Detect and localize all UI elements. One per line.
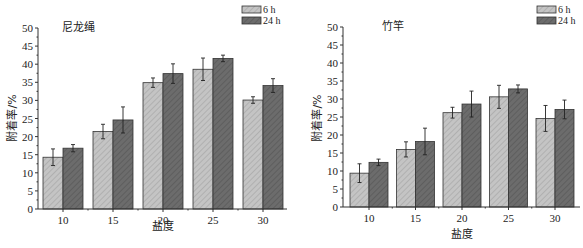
legend-swatch-6h xyxy=(537,6,556,13)
y-tick-label: 25 xyxy=(327,111,339,123)
y-tick-label: 35 xyxy=(327,75,339,87)
x-axis-title: 盐度 xyxy=(152,219,174,233)
y-tick-label: 50 xyxy=(327,21,339,33)
bar-6h-salinity-15 xyxy=(397,149,416,207)
x-tick-label: 30 xyxy=(550,212,562,224)
y-tick-label: 10 xyxy=(22,167,34,179)
bar-6h-salinity-20 xyxy=(143,83,163,209)
y-tick-label: 40 xyxy=(22,58,34,70)
y-tick-label: 45 xyxy=(327,39,339,51)
bar-24h-salinity-10 xyxy=(369,162,388,207)
x-tick-label: 10 xyxy=(364,212,376,224)
bar-24h-salinity-20 xyxy=(163,74,183,209)
x-tick-label: 15 xyxy=(410,212,422,224)
bars-layer xyxy=(350,89,574,207)
bar-6h-salinity-20 xyxy=(443,113,462,207)
legend: 6 h 24 h xyxy=(537,4,576,26)
x-tick-label: 25 xyxy=(208,214,220,226)
x-tick-label: 25 xyxy=(503,212,515,224)
bar-24h-salinity-20 xyxy=(462,104,481,207)
legend-swatch-6h xyxy=(242,6,261,13)
y-tick-label: 15 xyxy=(22,149,34,161)
x-tick-label: 30 xyxy=(258,214,270,226)
y-tick-label: 50 xyxy=(22,22,34,34)
figure: 05101520253035404550 1015202530 尼龙绳 盐度 附… xyxy=(0,0,583,248)
y-tick-label: 0 xyxy=(28,203,34,215)
bar-6h-salinity-15 xyxy=(93,132,113,209)
y-axis-title: 附着率/% xyxy=(5,94,19,141)
y-tick-label: 5 xyxy=(333,183,339,195)
bar-6h-salinity-25 xyxy=(490,97,509,207)
bar-24h-salinity-25 xyxy=(509,89,528,207)
y-tick-label: 20 xyxy=(22,131,34,143)
bar-24h-salinity-30 xyxy=(263,86,283,209)
legend-swatch-24h xyxy=(537,17,556,24)
x-tick-label: 10 xyxy=(58,214,70,226)
y-tick-label: 0 xyxy=(333,201,339,213)
legend-label-24h: 24 h xyxy=(263,15,281,26)
bar-6h-salinity-30 xyxy=(243,100,263,209)
x-tick-label: 15 xyxy=(108,214,120,226)
y-tick-label: 30 xyxy=(22,94,34,106)
x-tick-label: 20 xyxy=(457,212,469,224)
legend-label-6h: 6 h xyxy=(558,4,571,15)
bar-24h-salinity-10 xyxy=(63,148,83,209)
y-tick-label: 40 xyxy=(327,57,339,69)
y-axis-title: 附着率/% xyxy=(310,94,324,141)
chart-panel-bamboo-pole: 05101520253035404550 1015202530 竹竿 盐度 附着… xyxy=(310,4,580,241)
legend-label-24h: 24 h xyxy=(558,15,576,26)
x-ticks-layer: 1015202530 xyxy=(364,207,562,224)
x-axis-title: 盐度 xyxy=(451,227,473,241)
bars-layer xyxy=(43,58,283,209)
legend: 6 h 24 h xyxy=(242,4,281,26)
chart-panel-nylon-rope: 05101520253035404550 1015202530 尼龙绳 盐度 附… xyxy=(5,4,287,233)
y-tick-label: 25 xyxy=(22,113,34,125)
chart-title: 尼龙绳 xyxy=(62,20,95,34)
y-tick-label: 45 xyxy=(22,40,34,52)
y-tick-label: 5 xyxy=(28,185,34,197)
y-tick-label: 30 xyxy=(327,93,339,105)
y-tick-label: 15 xyxy=(327,147,339,159)
bar-6h-salinity-25 xyxy=(193,69,213,209)
y-tick-label: 20 xyxy=(327,129,339,141)
y-tick-label: 10 xyxy=(327,165,339,177)
y-ticks-layer: 05101520253035404550 xyxy=(22,22,38,215)
bar-24h-salinity-25 xyxy=(213,58,233,209)
y-ticks-layer: 05101520253035404550 xyxy=(327,21,343,213)
bar-24h-salinity-30 xyxy=(555,109,574,207)
chart-title: 竹竿 xyxy=(382,19,404,33)
legend-swatch-24h xyxy=(242,17,261,24)
legend-label-6h: 6 h xyxy=(263,4,276,15)
y-tick-label: 35 xyxy=(22,76,34,88)
